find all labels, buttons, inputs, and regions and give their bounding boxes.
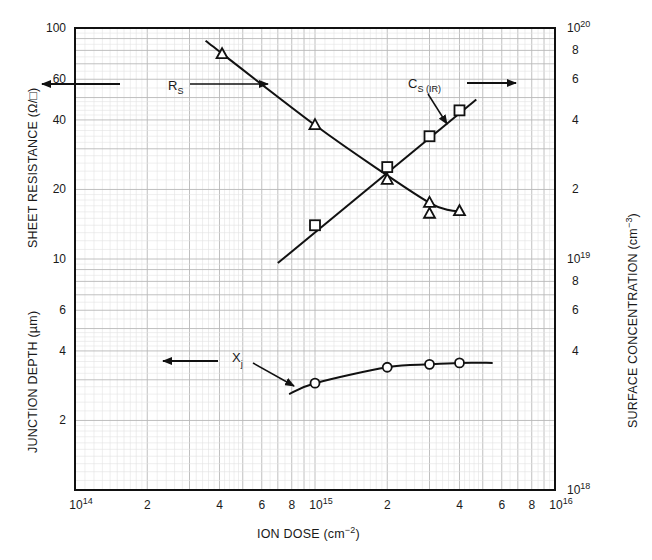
tick-label: 2 [384, 498, 391, 512]
tick-label: 8 [528, 498, 535, 512]
circle-marker-icon [455, 358, 464, 367]
tick-label: 20 [53, 182, 67, 196]
series-line-r [206, 41, 460, 211]
x-axis-title: ION DOSE (cm−2) [257, 525, 360, 541]
right-axis-title: SURFACE CONCENTRATION (cm−3) [624, 213, 640, 428]
tick-label: 1014 [69, 496, 92, 512]
tick-label: 10 [53, 252, 67, 266]
square-marker-icon [310, 220, 320, 230]
tick-label: 1018 [567, 481, 590, 497]
triangle-marker-icon [310, 119, 321, 129]
tick-label: 1015 [309, 496, 332, 512]
tick-label: 8 [288, 498, 295, 512]
cs-annotation: CS (IR) [408, 76, 516, 124]
xj-label: Xj [232, 350, 243, 369]
square-marker-icon [425, 131, 435, 141]
tick-labels: 1014246810152468101610060402010642102086… [46, 19, 590, 512]
tick-label: 1019 [567, 250, 590, 266]
tick-label: 4 [572, 113, 579, 127]
left-upper-axis-title: SHEET RESISTANCE (Ω/□) [26, 88, 40, 248]
tick-label: 2 [144, 498, 151, 512]
tick-label: 1016 [549, 496, 572, 512]
tick-label: 100 [46, 21, 66, 35]
square-marker-icon [382, 162, 392, 172]
xj-pointer-arrow-icon [253, 363, 294, 386]
log-grid [75, 28, 555, 490]
ion-dose-chart: 1014246810152468101610060402010642102086… [0, 0, 652, 560]
tick-label: 2 [59, 413, 66, 427]
left-lower-axis-title: JUNCTION DEPTH (µm) [26, 311, 40, 453]
tick-label: 40 [53, 113, 67, 127]
tick-label: 4 [216, 498, 223, 512]
tick-label: 8 [572, 274, 579, 288]
tick-label: 2 [572, 182, 579, 196]
rs-label: RS [168, 78, 183, 96]
square-marker-icon [454, 105, 464, 115]
tick-label: 6 [59, 303, 66, 317]
tick-label: 8 [572, 43, 579, 57]
circle-marker-icon [311, 379, 320, 388]
triangle-marker-icon [424, 197, 435, 207]
tick-label: 6 [572, 303, 579, 317]
triangle-marker-icon [424, 208, 435, 218]
tick-label: 4 [456, 498, 463, 512]
tick-label: 6 [498, 498, 505, 512]
tick-label: 6 [572, 72, 579, 86]
circle-marker-icon [425, 360, 434, 369]
tick-label: 6 [258, 498, 265, 512]
tick-label: 4 [572, 344, 579, 358]
circle-marker-icon [383, 363, 392, 372]
tick-label: 1020 [567, 19, 590, 35]
xj-annotation: Xj [163, 350, 294, 386]
tick-label: 4 [59, 344, 66, 358]
